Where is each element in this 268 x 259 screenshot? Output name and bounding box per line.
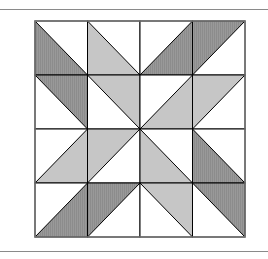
quilt-cell [140,75,193,129]
quilt-cell [193,75,246,129]
top-rule [0,9,268,10]
quilt-cell [193,129,246,183]
quilt-cell [35,21,88,75]
quilt-cell [88,21,141,75]
quilt-cell [88,75,141,129]
quilt-block [34,20,248,240]
quilt-cell [88,183,141,237]
quilt-cell [193,21,246,75]
quilt-cell [140,183,193,237]
quilt-cell [35,75,88,129]
quilt-cell [140,21,193,75]
bottom-rule [0,251,268,252]
quilt-cell [140,129,193,183]
quilt-cell [88,129,141,183]
quilt-cells [35,21,245,237]
quilt-cell [193,183,246,237]
quilt-cell [35,129,88,183]
quilt-cell [35,183,88,237]
